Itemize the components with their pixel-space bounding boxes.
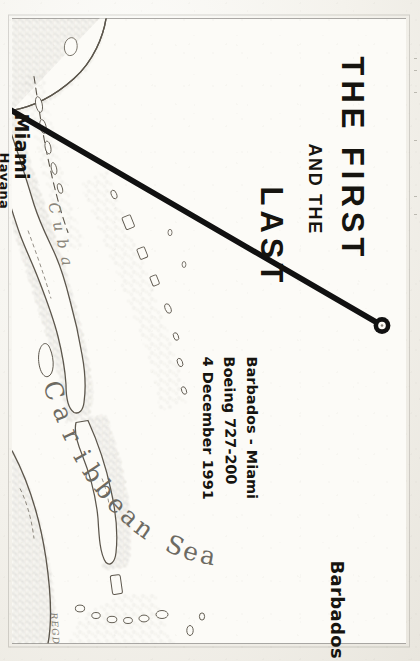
caption-last-date: 4 December 1991 bbox=[200, 356, 216, 499]
edge-mark bbox=[414, 92, 417, 93]
title-line-3: LAST bbox=[256, 186, 287, 287]
title-line-1: THE FIRST bbox=[337, 56, 368, 261]
place-label-miami: Miami bbox=[11, 113, 33, 179]
edge-mark bbox=[414, 70, 417, 71]
edge-mark bbox=[414, 214, 417, 215]
map-page: THE FIRST AND THE LAST Miami Barbados Ke… bbox=[0, 0, 420, 661]
title-line-2: AND THE bbox=[306, 143, 324, 234]
edge-mark bbox=[414, 58, 417, 59]
edge-mark bbox=[414, 196, 417, 197]
place-label-barbados: Barbados bbox=[327, 560, 348, 659]
edge-mark bbox=[414, 140, 417, 141]
place-label-havana: Havana bbox=[0, 152, 12, 209]
caption-last-route: Barbados - Miami bbox=[244, 356, 260, 499]
map-plate: THE FIRST AND THE LAST Miami Barbados Ke… bbox=[0, 0, 420, 661]
caption-last-aircraft: Boeing 727-200 bbox=[221, 356, 239, 484]
